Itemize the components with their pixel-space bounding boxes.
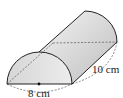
length-label: 10 cm bbox=[92, 63, 119, 75]
half-cylinder-shape bbox=[0, 0, 123, 98]
diameter-label: 8 cm bbox=[28, 87, 50, 98]
half-cylinder-diagram: 10 cm 8 cm bbox=[0, 0, 123, 98]
center-point bbox=[38, 83, 41, 86]
